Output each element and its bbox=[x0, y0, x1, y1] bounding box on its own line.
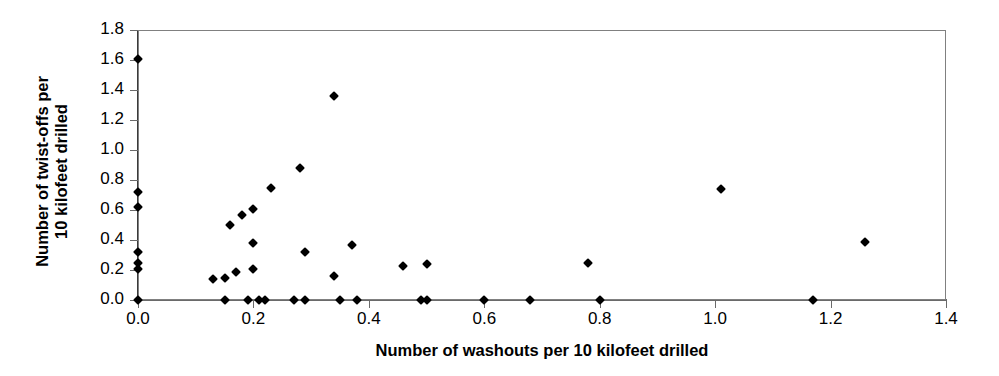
x-tick bbox=[369, 301, 370, 308]
y-tick bbox=[130, 150, 138, 151]
x-tick-label: 0.8 bbox=[570, 309, 630, 329]
x-tick bbox=[253, 301, 254, 308]
y-tick bbox=[130, 120, 138, 121]
y-tick bbox=[130, 90, 138, 91]
scatter-chart-figure: Number of twist-offs per 10 kilofeet dri… bbox=[0, 0, 999, 376]
y-tick-label: 0.0 bbox=[66, 289, 124, 309]
x-tick-label: 0.4 bbox=[339, 309, 399, 329]
x-tick-label: 1.4 bbox=[916, 309, 976, 329]
y-tick-label: 0.6 bbox=[66, 199, 124, 219]
x-axis-title: Number of washouts per 10 kilofeet drill… bbox=[138, 341, 946, 360]
x-tick bbox=[715, 301, 716, 308]
y-tick-label: 0.4 bbox=[66, 229, 124, 249]
y-tick-label: 1.2 bbox=[66, 109, 124, 129]
y-tick-label: 1.4 bbox=[66, 79, 124, 99]
y-tick-label: 0.8 bbox=[66, 169, 124, 189]
x-tick bbox=[946, 301, 947, 308]
x-tick bbox=[831, 301, 832, 308]
y-tick bbox=[130, 180, 138, 181]
x-tick-label: 0.2 bbox=[223, 309, 283, 329]
x-tick-label: 1.2 bbox=[801, 309, 861, 329]
y-tick-label: 1.0 bbox=[66, 139, 124, 159]
y-tick bbox=[130, 30, 138, 31]
y-tick-label: 1.6 bbox=[66, 49, 124, 69]
x-tick-label: 1.0 bbox=[685, 309, 745, 329]
y-tick-label: 0.2 bbox=[66, 259, 124, 279]
x-tick-label: 0.0 bbox=[108, 309, 168, 329]
x-tick-label: 0.6 bbox=[454, 309, 514, 329]
plot-area bbox=[138, 30, 946, 300]
y-tick-label: 1.8 bbox=[66, 19, 124, 39]
y-tick bbox=[130, 240, 138, 241]
